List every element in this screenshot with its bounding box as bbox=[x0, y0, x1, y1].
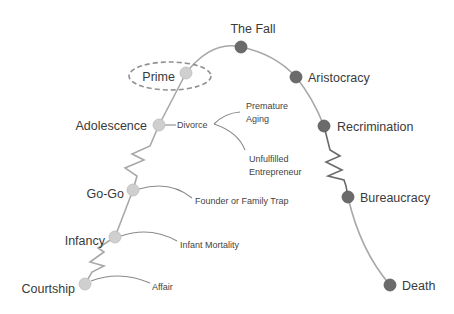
connector-infant-mortality bbox=[121, 232, 177, 241]
node-go-go[interactable] bbox=[127, 184, 139, 196]
connector-affair bbox=[91, 276, 150, 283]
node-recrimination[interactable] bbox=[318, 120, 330, 132]
curve-recrimination-bureaucracy bbox=[324, 126, 348, 197]
label-go-go: Go-Go bbox=[86, 187, 124, 201]
trap-premature-aging-line1: Premature bbox=[246, 101, 288, 111]
trap-unfulfilled-line1: Unfulfilled bbox=[249, 154, 289, 164]
node-courtship[interactable] bbox=[79, 278, 91, 290]
node-bureaucracy[interactable] bbox=[342, 191, 354, 203]
label-death: Death bbox=[402, 279, 435, 293]
connector-founder-trap bbox=[139, 186, 192, 198]
trap-premature-aging-line2: Aging bbox=[246, 114, 269, 124]
trap-divorce: Divorce bbox=[177, 120, 208, 130]
curve-gogo-adolescence bbox=[125, 125, 159, 190]
node-adolescence[interactable] bbox=[153, 119, 165, 131]
trap-founder-family: Founder or Family Trap bbox=[195, 196, 289, 206]
lifecycle-diagram: Courtship Infancy Go-Go Adolescence Prim… bbox=[0, 0, 454, 314]
label-adolescence: Adolescence bbox=[75, 119, 147, 133]
connector-premature-aging bbox=[214, 112, 240, 124]
node-aristocracy[interactable] bbox=[290, 71, 302, 83]
label-the-fall: The Fall bbox=[230, 22, 275, 36]
label-bureaucracy: Bureaucracy bbox=[360, 191, 431, 205]
curve-bureaucracy-death bbox=[348, 197, 390, 285]
label-courtship: Courtship bbox=[22, 282, 76, 296]
connector-unfulfilled bbox=[214, 124, 245, 150]
node-the-fall[interactable] bbox=[235, 41, 247, 53]
label-infancy: Infancy bbox=[65, 234, 106, 248]
node-infancy[interactable] bbox=[109, 231, 121, 243]
label-aristocracy: Aristocracy bbox=[308, 71, 371, 85]
label-prime: Prime bbox=[142, 70, 175, 84]
label-recrimination: Recrimination bbox=[337, 120, 413, 134]
trap-unfulfilled-line2: Entrepreneur bbox=[249, 167, 302, 177]
node-death[interactable] bbox=[384, 279, 396, 291]
node-prime[interactable] bbox=[180, 67, 192, 79]
trap-infant-mortality: Infant Mortality bbox=[180, 240, 240, 250]
trap-affair: Affair bbox=[152, 282, 173, 292]
